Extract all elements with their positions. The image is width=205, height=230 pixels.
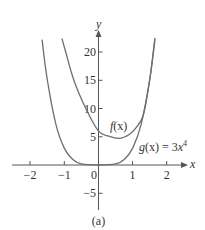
y-tick-label: 15 (84, 73, 96, 87)
y-tick-label: −5 (83, 186, 96, 200)
y-tick-label: 20 (84, 45, 96, 59)
graph-figure: −2 −1 0 1 2 20 15 10 5 −5 x y f(x) g(x) … (0, 0, 205, 230)
g-curve-label: g(x) = 3x4 (139, 139, 187, 154)
f-curve-label: f(x) (110, 119, 127, 133)
x-tick-label: 2 (164, 168, 170, 182)
x-axis-arrow-icon (181, 162, 188, 168)
y-ticks (99, 52, 103, 193)
y-axis-label: y (95, 17, 102, 31)
x-tick-label: 0 (91, 168, 97, 182)
x-axis-label: x (189, 157, 196, 171)
x-tick-label: −1 (58, 168, 71, 182)
y-tick-label: 5 (90, 130, 96, 144)
x-tick-label: −2 (24, 168, 37, 182)
x-tick-label: 1 (130, 168, 136, 182)
axes (12, 36, 183, 210)
figure-caption: (a) (92, 214, 105, 228)
y-axis-arrow-icon (96, 30, 102, 37)
